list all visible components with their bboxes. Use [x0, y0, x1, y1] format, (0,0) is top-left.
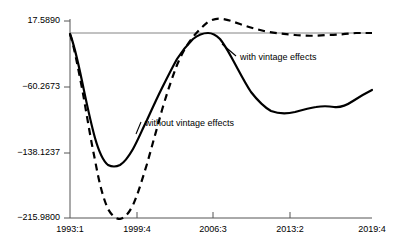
annotation-without-vintage-effects: without vintage effects [145, 118, 234, 128]
x-tick-label-0: 1993:1 [44, 224, 96, 234]
annotation-with-vintage-effects: with vintage effects [240, 52, 316, 62]
x-tick-label-2: 2006:3 [187, 224, 239, 234]
y-tick-label-1: −60.2673 [0, 81, 60, 91]
series-with-vintage-effects [70, 33, 372, 167]
chart-figure: 17.5890 −60.2673 −138.1237 −215.9800 199… [0, 0, 394, 245]
y-tick-label-2: −138.1237 [0, 147, 60, 157]
x-tick-label-4: 2019:4 [346, 224, 394, 234]
y-tick-label-0: 17.5890 [0, 15, 60, 25]
x-tick-label-1: 1999:4 [111, 224, 163, 234]
y-tick-label-3: −215.9800 [0, 212, 60, 222]
x-tick-label-3: 2013:2 [264, 224, 316, 234]
